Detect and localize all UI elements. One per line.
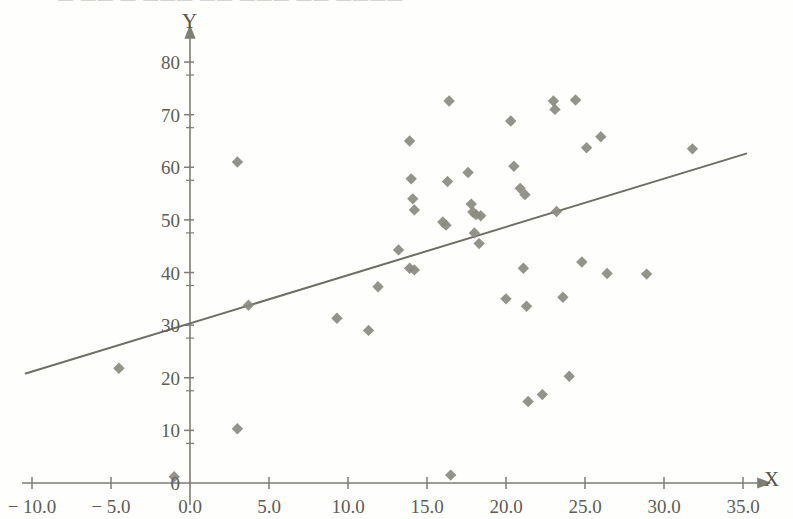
scatter-point xyxy=(232,423,243,434)
x-tick-label: 25.0 xyxy=(568,497,601,516)
x-tick-label: 30.0 xyxy=(647,497,680,516)
scatter-point xyxy=(113,363,124,374)
scatter-point xyxy=(521,300,532,311)
scatter-point xyxy=(473,238,484,249)
y-tick-label: 40 xyxy=(144,263,180,282)
x-axis-title: X xyxy=(764,469,779,490)
scatter-point xyxy=(537,389,548,400)
scatter-point xyxy=(443,95,454,106)
x-tick-label: 15.0 xyxy=(410,497,443,516)
y-tick-label: 60 xyxy=(144,158,180,177)
y-tick-label: 50 xyxy=(144,210,180,229)
scatter-point xyxy=(548,95,559,106)
plot-canvas xyxy=(0,0,793,519)
scatter-point xyxy=(505,115,516,126)
y-tick-label: 0 xyxy=(144,474,180,493)
scatter-point xyxy=(576,256,587,267)
scatter-point xyxy=(404,135,415,146)
x-tick-label: 20.0 xyxy=(489,497,522,516)
scatter-point xyxy=(363,325,374,336)
y-tick-label: 80 xyxy=(144,53,180,72)
scatter-point xyxy=(406,173,417,184)
scatter-point xyxy=(445,469,456,480)
scatter-point xyxy=(409,204,420,215)
scatter-point xyxy=(551,206,562,217)
x-tick-label: − 10.0 xyxy=(8,497,57,516)
scatter-point xyxy=(557,292,568,303)
scatter-point xyxy=(372,281,383,292)
scatter-point xyxy=(500,293,511,304)
scatter-point xyxy=(508,161,519,172)
scatter-point xyxy=(595,131,606,142)
x-tick-label: 35.0 xyxy=(726,497,759,516)
scatter-point xyxy=(687,143,698,154)
scatter-point xyxy=(601,268,612,279)
scatter-point xyxy=(442,176,453,187)
y-tick-label: 20 xyxy=(144,368,180,387)
x-tick-label: 5.0 xyxy=(257,497,281,516)
scatter-point xyxy=(462,167,473,178)
data-point-markers xyxy=(113,94,698,482)
y-tick-label: 30 xyxy=(144,316,180,335)
axis-ticks xyxy=(32,62,743,489)
y-tick-label: 70 xyxy=(144,105,180,124)
y-axis-title: Y xyxy=(182,11,197,32)
scatter-point xyxy=(641,268,652,279)
scatter-point xyxy=(393,244,404,255)
scatter-plot-figure: — —— — ——— —— ——— —— ———— − 10.0− 5.00.0… xyxy=(0,0,793,519)
x-tick-label: − 5.0 xyxy=(91,497,130,516)
y-tick-label: 10 xyxy=(144,421,180,440)
x-tick-label: 0.0 xyxy=(178,497,202,516)
scatter-point xyxy=(331,313,342,324)
scatter-point xyxy=(232,156,243,167)
scatter-point xyxy=(243,299,254,310)
scatter-point xyxy=(522,396,533,407)
scatter-point xyxy=(581,142,592,153)
axis-lines xyxy=(22,26,770,505)
scatter-point xyxy=(518,263,529,274)
scatter-point xyxy=(549,104,560,115)
scatter-point xyxy=(407,193,418,204)
scatter-point xyxy=(564,370,575,381)
regression-line xyxy=(26,154,746,374)
scatter-point xyxy=(570,94,581,105)
x-tick-label: 10.0 xyxy=(331,497,364,516)
